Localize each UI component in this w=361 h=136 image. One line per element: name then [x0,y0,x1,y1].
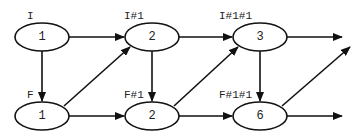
node-label: F#1 [124,89,144,101]
node-value: 1 [38,109,45,123]
edge-F-to-I1 [64,47,130,106]
node-value: 2 [148,109,155,123]
node-value: 1 [38,30,45,44]
node-value: 3 [256,30,263,44]
node-label: I [27,10,34,22]
node-value: 6 [256,109,263,123]
graph-diagram: 1 I 2 I#1 3 I#1#1 1 F 2 F#1 6 F#1#1 [0,0,361,136]
node-I11: 3 I#1#1 [219,10,287,51]
node-label: I#1 [124,10,144,22]
node-label: I#1#1 [219,10,252,22]
node-label: F#1#1 [219,89,252,101]
node-label: F [27,89,34,101]
edge-F11-out-diagonal [282,47,350,106]
node-F11: 6 F#1#1 [219,89,287,130]
node-I: 1 I [15,10,69,51]
node-value: 2 [148,30,155,44]
edges [42,37,350,116]
node-I1: 2 I#1 [124,10,179,51]
